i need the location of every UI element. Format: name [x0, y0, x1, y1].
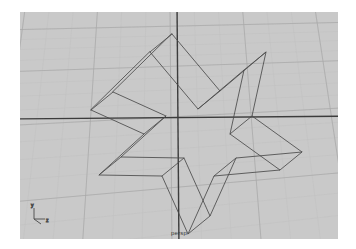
viewport-canvas[interactable]: y z	[20, 12, 338, 239]
perspective-viewport[interactable]: y z persp	[20, 12, 338, 239]
cad-application-window: y z persp	[0, 0, 356, 249]
viewport-name-label[interactable]: persp	[20, 230, 338, 236]
